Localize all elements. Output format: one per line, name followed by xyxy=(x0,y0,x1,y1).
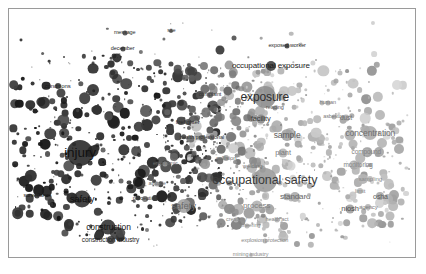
data-point xyxy=(199,160,200,161)
data-point xyxy=(233,160,237,164)
data-point xyxy=(213,129,221,137)
data-point xyxy=(34,127,36,129)
data-point xyxy=(220,223,222,225)
data-point xyxy=(189,182,191,184)
data-point xyxy=(224,91,234,101)
data-point xyxy=(196,155,198,157)
data-point xyxy=(323,160,326,163)
data-point xyxy=(218,114,225,121)
data-point xyxy=(113,139,115,141)
data-point xyxy=(256,143,264,151)
data-point xyxy=(186,194,189,197)
data-point xyxy=(274,124,282,132)
data-point xyxy=(104,164,106,166)
data-point xyxy=(167,181,168,182)
data-point xyxy=(17,180,18,181)
data-point xyxy=(156,190,167,201)
point-label: osha xyxy=(373,193,388,200)
data-point xyxy=(279,232,288,241)
data-point xyxy=(337,230,338,231)
data-point xyxy=(240,106,242,108)
data-point xyxy=(302,120,308,126)
data-point xyxy=(305,196,307,198)
data-point xyxy=(184,198,194,208)
data-point xyxy=(200,102,201,103)
data-point xyxy=(217,225,220,228)
data-point xyxy=(9,80,18,90)
data-point xyxy=(249,126,250,127)
data-point xyxy=(226,100,228,102)
data-point xyxy=(139,189,143,193)
data-point xyxy=(211,104,221,114)
data-point xyxy=(361,94,371,104)
data-point xyxy=(340,135,344,139)
data-point xyxy=(207,92,213,98)
data-point xyxy=(218,114,223,119)
data-point xyxy=(192,151,197,156)
data-point xyxy=(386,224,387,225)
data-point xyxy=(357,87,363,93)
data-point xyxy=(141,85,148,92)
data-point xyxy=(204,149,206,151)
data-point xyxy=(180,189,184,193)
data-point xyxy=(216,189,219,192)
data-point xyxy=(91,107,96,112)
data-point xyxy=(201,113,202,114)
data-point xyxy=(181,226,182,227)
data-point xyxy=(168,150,172,154)
data-point xyxy=(241,197,243,199)
data-point xyxy=(376,182,379,185)
data-point xyxy=(10,99,19,108)
data-point xyxy=(72,127,73,128)
data-point xyxy=(235,153,240,158)
data-point xyxy=(350,160,359,169)
data-point xyxy=(189,173,191,175)
data-point xyxy=(294,241,300,247)
data-point xyxy=(142,69,143,70)
data-point xyxy=(361,208,367,214)
data-point xyxy=(56,183,58,185)
data-point xyxy=(117,57,119,59)
data-point xyxy=(375,110,385,120)
data-point xyxy=(153,185,154,186)
data-point xyxy=(243,114,250,121)
data-point xyxy=(211,172,223,184)
data-point xyxy=(392,140,397,145)
data-point xyxy=(254,76,256,78)
data-point xyxy=(277,91,286,100)
data-point xyxy=(216,154,217,155)
data-point xyxy=(339,208,341,210)
data-point xyxy=(163,101,172,110)
data-point xyxy=(264,161,266,163)
data-point xyxy=(235,186,239,190)
data-point xyxy=(343,236,347,240)
data-point xyxy=(199,135,205,141)
data-point xyxy=(188,175,192,179)
data-point xyxy=(101,211,103,213)
data-point xyxy=(105,113,112,120)
data-point xyxy=(216,201,217,202)
data-point xyxy=(304,88,307,91)
data-point xyxy=(61,131,64,134)
data-point xyxy=(150,109,152,111)
data-point xyxy=(89,234,91,236)
data-point xyxy=(228,95,230,97)
data-point xyxy=(26,100,35,109)
data-point xyxy=(314,142,315,143)
data-point xyxy=(281,129,293,141)
data-point xyxy=(245,129,249,133)
data-point xyxy=(239,156,240,157)
data-point xyxy=(134,194,137,197)
data-point xyxy=(162,37,165,40)
data-point xyxy=(265,134,268,137)
data-point xyxy=(68,62,69,63)
point-label: creativity xyxy=(226,217,247,223)
data-point xyxy=(287,230,289,232)
data-point xyxy=(360,140,361,141)
data-point xyxy=(379,194,381,196)
data-point xyxy=(165,150,166,151)
data-point xyxy=(209,180,218,189)
data-point xyxy=(167,140,169,142)
data-point xyxy=(193,92,200,99)
data-point xyxy=(192,168,198,174)
